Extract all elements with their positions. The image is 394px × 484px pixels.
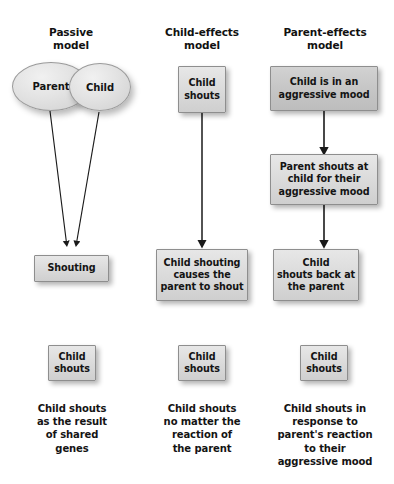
node-child-shouts: Child shouts bbox=[178, 66, 226, 113]
node-aggressive-mood: Child is in an aggressive mood bbox=[270, 66, 378, 111]
arrow-child-to-shouting bbox=[77, 112, 100, 243]
node-child-shouting-causes: Child shouting causes the parent to shou… bbox=[156, 249, 248, 301]
node-summary-parent-effects: Child shouts bbox=[300, 345, 348, 381]
ellipse-parent-label: Parent bbox=[33, 81, 70, 92]
caption-passive: Child shouts as the result of shared gen… bbox=[12, 402, 132, 455]
column-header-parent-effects: Parent-effects model bbox=[266, 26, 384, 52]
arrow-parent-to-shouting bbox=[50, 111, 67, 243]
node-shouting: Shouting bbox=[34, 255, 109, 282]
caption-child-effects: Child shouts no matter the reaction of t… bbox=[142, 402, 262, 455]
node-summary-child-effects: Child shouts bbox=[178, 345, 226, 381]
caption-parent-effects: Child shouts in response to parent's rea… bbox=[262, 402, 388, 468]
node-child-shouts-back: Child shouts back at the parent bbox=[273, 249, 359, 301]
ellipse-child-label: Child bbox=[86, 82, 114, 93]
diagram-root: Passive model Child-effects model Parent… bbox=[0, 0, 394, 484]
node-summary-passive: Child shouts bbox=[48, 345, 96, 381]
column-header-child-effects: Child-effects model bbox=[146, 26, 258, 52]
node-parent-shouts-at-child: Parent shouts at child for their aggress… bbox=[270, 154, 378, 205]
ellipse-child: Child bbox=[69, 63, 131, 111]
column-header-passive: Passive model bbox=[16, 26, 126, 52]
